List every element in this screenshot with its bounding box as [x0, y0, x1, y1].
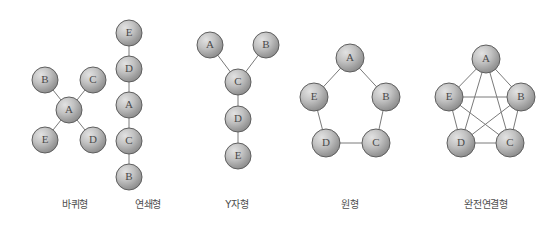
node-wheel-e: E	[32, 127, 58, 153]
node-y-shape-d: D	[225, 106, 251, 132]
network-y-shape: ABCDE	[197, 32, 279, 169]
node-circle-icon	[80, 127, 106, 153]
node-circle-icon	[225, 106, 251, 132]
node-all-channel-d: D	[447, 129, 475, 157]
caption-chain: 연쇄형	[135, 196, 161, 211]
node-circle-icon	[312, 129, 340, 157]
node-chain-b: B	[116, 164, 142, 190]
node-circle-icon	[116, 128, 142, 154]
caption-wheel: 바퀴형	[62, 196, 88, 211]
node-circle-icon	[116, 56, 142, 82]
network-chain: EDACB	[116, 20, 142, 190]
node-chain-d: D	[116, 56, 142, 82]
node-all-channel-c: C	[496, 129, 524, 157]
caption-y-shape: Y자형	[225, 196, 249, 211]
node-all-channel-a: A	[472, 45, 500, 73]
node-circle-e: E	[300, 83, 328, 111]
node-circle-icon	[197, 32, 223, 58]
node-circle-icon	[80, 67, 106, 93]
caption-all-channel: 완전연결형	[464, 196, 508, 211]
caption-circle: 원형	[341, 196, 359, 211]
node-circle-b: B	[372, 83, 400, 111]
node-circle-icon	[507, 83, 535, 111]
node-circle-icon	[496, 129, 524, 157]
node-circle-icon	[372, 83, 400, 111]
node-y-shape-a: A	[197, 32, 223, 58]
node-circle-icon	[225, 69, 251, 95]
node-circle-icon	[253, 32, 279, 58]
node-circle-icon	[447, 129, 475, 157]
node-chain-e: E	[116, 20, 142, 46]
node-circle-icon	[336, 44, 364, 72]
node-circle-c: C	[362, 129, 390, 157]
node-chain-a: A	[116, 92, 142, 118]
node-all-channel-e: E	[435, 83, 463, 111]
network-all-channel: ABCDE	[435, 45, 535, 157]
network-circle: ABCDE	[300, 44, 400, 157]
node-all-channel-b: B	[507, 83, 535, 111]
network-wheel: BCAED	[32, 67, 106, 153]
node-circle-a: A	[336, 44, 364, 72]
node-wheel-a: A	[56, 97, 82, 123]
node-circle-icon	[116, 92, 142, 118]
edges-y-shape	[210, 45, 266, 156]
node-circle-icon	[32, 67, 58, 93]
node-y-shape-e: E	[225, 143, 251, 169]
node-wheel-b: B	[32, 67, 58, 93]
node-circle-icon	[56, 97, 82, 123]
node-circle-icon	[32, 127, 58, 153]
node-wheel-c: C	[80, 67, 106, 93]
node-circle-icon	[362, 129, 390, 157]
node-wheel-d: D	[80, 127, 106, 153]
node-circle-d: D	[312, 129, 340, 157]
node-circle-icon	[300, 83, 328, 111]
node-circle-icon	[225, 143, 251, 169]
node-circle-icon	[116, 164, 142, 190]
node-y-shape-b: B	[253, 32, 279, 58]
node-circle-icon	[472, 45, 500, 73]
node-chain-c: C	[116, 128, 142, 154]
node-circle-icon	[116, 20, 142, 46]
node-circle-icon	[435, 83, 463, 111]
node-y-shape-c: C	[225, 69, 251, 95]
